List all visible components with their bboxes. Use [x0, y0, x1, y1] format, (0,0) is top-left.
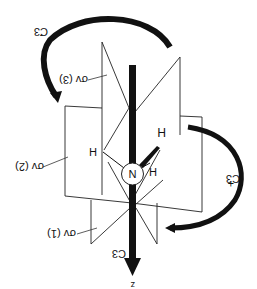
c3-minus-rotation-arrow — [44, 19, 170, 103]
label-c3-minus-mark: - — [40, 31, 43, 42]
label-z: z — [130, 280, 135, 289]
label-hydrogen-left: H — [89, 146, 97, 158]
diagram-canvas: σv (3) σv (2) σv (1) C3 - C3 + C3 z N H … — [0, 0, 257, 289]
label-nitrogen: N — [129, 168, 137, 180]
label-c3-axis: C3 — [112, 248, 126, 260]
label-c3-plus-mark: + — [228, 178, 234, 190]
nh3-symmetry-diagram: σv (3) σv (2) σv (1) C3 - C3 + C3 z N H … — [0, 0, 257, 289]
labels: σv (3) σv (2) σv (1) C3 - C3 + C3 z N H … — [15, 26, 240, 289]
arrowhead-icon — [50, 91, 62, 103]
label-sigma-v1: σv (1) — [47, 228, 76, 240]
label-sigma-v2: σv (2) — [15, 161, 44, 173]
label-hydrogen-right: H — [149, 166, 157, 178]
label-hydrogen-top: H — [157, 125, 166, 139]
wedge-bond-icon — [139, 146, 160, 168]
label-sigma-v3: σv (3) — [59, 74, 88, 86]
arrowhead-icon — [165, 223, 175, 233]
